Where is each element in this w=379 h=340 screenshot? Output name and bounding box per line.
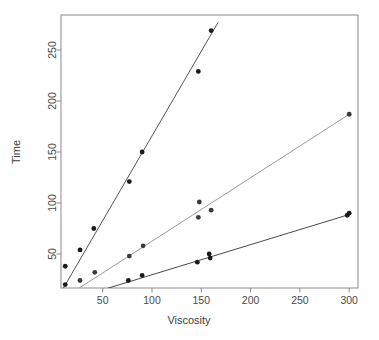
data-point [140, 273, 145, 278]
data-point [78, 278, 83, 283]
y-tick-label: 50 [46, 248, 58, 260]
data-point [208, 256, 213, 261]
plot-canvas: 50100150200250300 50100150200250 Viscosi… [0, 0, 379, 340]
data-point [127, 254, 132, 259]
x-axis-title: Viscosity [167, 314, 211, 326]
data-point [195, 260, 200, 265]
data-point [63, 264, 68, 269]
data-point [140, 150, 145, 155]
data-point [78, 248, 83, 253]
scatter-plot-figure: 50100150200250300 50100150200250 Viscosi… [0, 0, 379, 340]
data-point [92, 270, 97, 275]
data-point [127, 179, 132, 184]
x-tick-label: 200 [242, 294, 260, 306]
data-point [196, 215, 201, 220]
x-tick-label: 100 [143, 294, 161, 306]
data-point [209, 208, 214, 213]
data-point [197, 200, 202, 205]
data-point [91, 226, 96, 231]
data-point [209, 28, 214, 33]
data-point [196, 69, 201, 74]
data-point [63, 282, 68, 287]
x-tick-label: 250 [291, 294, 309, 306]
x-tick-label: 300 [340, 294, 358, 306]
y-tick-label: 200 [46, 92, 58, 110]
data-point [207, 252, 212, 257]
data-point [141, 243, 146, 248]
y-tick-label: 250 [46, 41, 58, 59]
y-axis-title: Time [10, 140, 22, 164]
data-point [347, 112, 352, 117]
x-tick-label: 50 [97, 294, 109, 306]
x-tick-label: 150 [193, 294, 211, 306]
y-tick-label: 100 [46, 194, 58, 212]
data-point [126, 278, 131, 283]
y-tick-label: 150 [46, 143, 58, 161]
data-point [347, 211, 352, 216]
